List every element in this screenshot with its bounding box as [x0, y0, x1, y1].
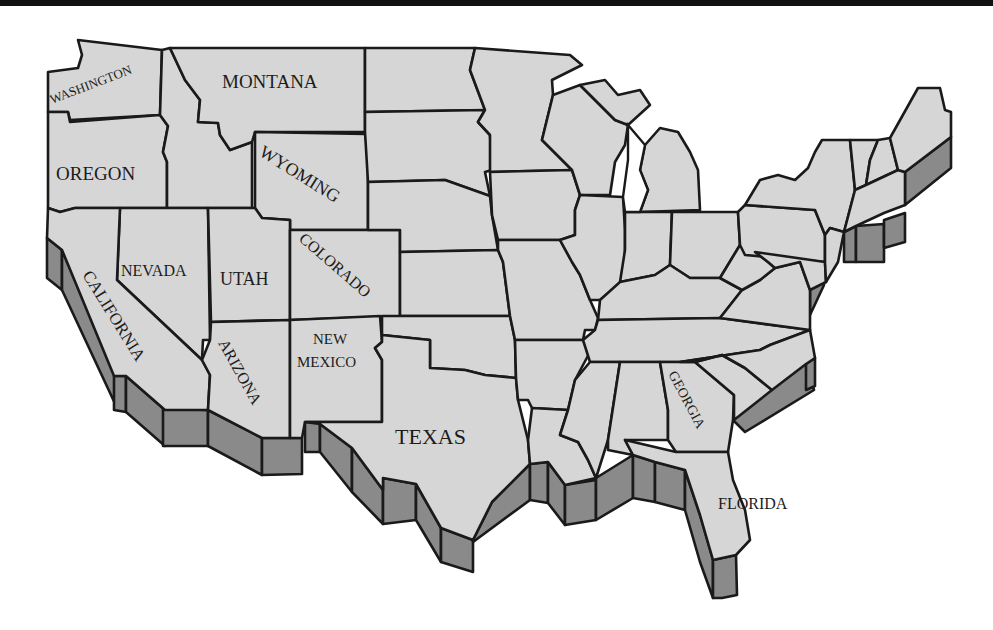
state-utah[interactable]	[208, 208, 290, 322]
label-utah: UTAH	[220, 269, 269, 289]
label-texas: TEXAS	[395, 424, 466, 449]
label-oregon: OREGON	[56, 163, 135, 184]
us-map: WASHINGTON MONTANA OREGON WYOMING NEVADA…	[0, 0, 993, 630]
state-michigan-lower[interactable]	[640, 128, 700, 212]
state-kansas[interactable]	[400, 250, 510, 316]
label-new-mexico-line2: MEXICO	[297, 354, 356, 370]
state-pennsylvania[interactable]	[738, 205, 825, 262]
state-oregon[interactable]	[48, 112, 168, 212]
state-alabama[interactable]	[608, 362, 668, 455]
label-montana: MONTANA	[222, 71, 318, 92]
state-new-jersey[interactable]	[825, 228, 844, 282]
label-nevada: NEVADA	[121, 262, 187, 279]
label-new-mexico-line1: NEW	[313, 331, 348, 347]
label-florida: FLORIDA	[718, 495, 788, 512]
state-north-dakota[interactable]	[365, 48, 485, 112]
state-iowa[interactable]	[490, 170, 580, 240]
